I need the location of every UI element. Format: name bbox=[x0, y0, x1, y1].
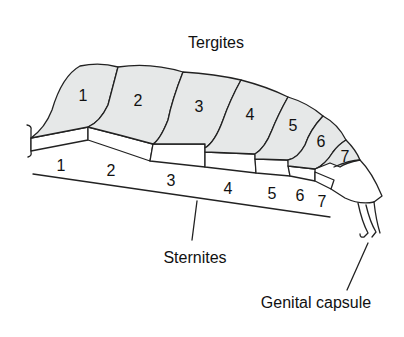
genital-capsule-appendages bbox=[358, 202, 380, 237]
tergite-number-7: 7 bbox=[341, 148, 350, 165]
sternite-number-6: 6 bbox=[296, 187, 305, 204]
sternite-plate-7 bbox=[315, 172, 334, 189]
sternites-label: Sternites bbox=[163, 249, 226, 266]
sternite-number-2: 2 bbox=[107, 162, 116, 179]
sternite-number-5: 5 bbox=[268, 185, 277, 202]
tergite-number-1: 1 bbox=[79, 87, 88, 104]
sternite-plate-3 bbox=[150, 144, 205, 167]
genital-capsule-pointer-line bbox=[347, 243, 368, 290]
tergite-number-6: 6 bbox=[317, 133, 326, 150]
sternites-bracket-line bbox=[33, 174, 330, 217]
tergite-number-5: 5 bbox=[289, 117, 298, 134]
sternite-number-4: 4 bbox=[224, 180, 233, 197]
sternite-number-3: 3 bbox=[167, 172, 176, 189]
sternites-pointer-line bbox=[192, 201, 197, 240]
sternite-number-1: 1 bbox=[57, 157, 66, 174]
tergite-number-3: 3 bbox=[195, 98, 204, 115]
tergite-number-2: 2 bbox=[134, 92, 143, 109]
genital-capsule-label: Genital capsule bbox=[261, 294, 371, 311]
sternite-plate-5 bbox=[255, 159, 290, 176]
sternite-number-7: 7 bbox=[318, 193, 327, 210]
tergite-number-4: 4 bbox=[246, 106, 255, 123]
tergites-label: Tergites bbox=[188, 34, 244, 51]
sternite-plate-4 bbox=[205, 152, 256, 173]
insect-abdomen-diagram: Tergites 1 2 3 4 5 6 7 1 2 3 4 5 6 7 Ste… bbox=[0, 0, 404, 337]
